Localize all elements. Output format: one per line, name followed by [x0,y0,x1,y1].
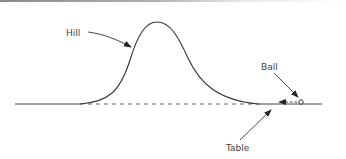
hill-curve [80,22,258,104]
ball [299,100,303,104]
table-pointer-arrow [240,110,271,140]
ball-label: Ball [261,62,278,72]
ball-pointer-arrow [274,73,298,97]
hill-ball-diagram: Hill Ball Table [0,0,346,159]
hill-label: Hill [66,28,80,38]
table-label: Table [225,143,250,153]
hill-pointer-arrow [88,32,131,47]
